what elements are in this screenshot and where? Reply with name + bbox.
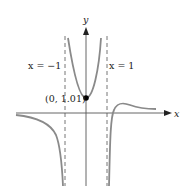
- asymptote-left-label: x = −1: [28, 60, 61, 71]
- curve-middle-branch: [68, 38, 101, 98]
- curve-right-branch: [109, 103, 156, 186]
- asymptote-right-label: x = 1: [109, 60, 134, 71]
- function-graph: y x x = −1 x = 1 (0, 1.01): [0, 0, 189, 192]
- y-axis-arrow-icon: [83, 27, 89, 35]
- curve-left-branch: [16, 115, 63, 186]
- x-axis-arrow-icon: [164, 110, 172, 116]
- point-label: (0, 1.01): [45, 93, 86, 104]
- y-axis-label: y: [82, 14, 89, 25]
- x-axis-label: x: [174, 108, 180, 119]
